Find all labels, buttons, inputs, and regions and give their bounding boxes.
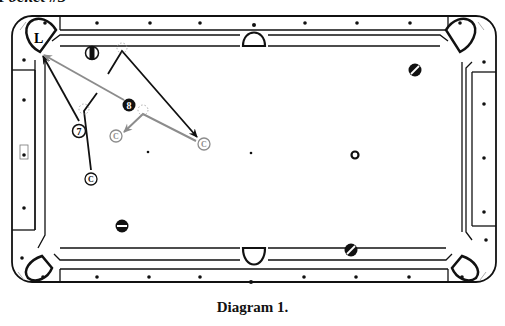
rail-lines xyxy=(12,16,496,282)
diamond xyxy=(95,21,99,25)
diamond xyxy=(41,275,45,279)
cue-1: C xyxy=(85,173,97,185)
pocket-bottom-side xyxy=(243,248,265,284)
diamond xyxy=(95,275,99,279)
shot-paths xyxy=(43,51,197,170)
diamond xyxy=(482,102,486,106)
svg-text:8: 8 xyxy=(127,100,132,111)
pocket-top-left: L xyxy=(20,19,56,52)
diamond xyxy=(302,275,306,279)
ball-small-center xyxy=(352,152,359,159)
ball-8: 8 xyxy=(123,99,136,112)
diamond xyxy=(407,275,411,279)
path-7-to-pocket xyxy=(43,56,79,121)
diamond xyxy=(458,21,462,25)
diamond xyxy=(303,21,307,25)
diamond xyxy=(354,275,358,279)
ball-striped-top xyxy=(86,47,99,60)
ball-striped-bottom-left xyxy=(116,220,129,233)
table-spots xyxy=(147,151,253,155)
diamond xyxy=(20,256,24,260)
pocket-bottom-right xyxy=(452,256,486,280)
diamond xyxy=(482,156,486,160)
svg-text:C: C xyxy=(201,140,207,149)
ball-7: 7 xyxy=(73,125,86,138)
diamond xyxy=(482,210,486,214)
diagram-caption: Diagram 1. xyxy=(0,299,505,316)
diamond xyxy=(147,275,151,279)
pocket-label: L xyxy=(34,31,43,46)
pool-table-diagram: L 78 CCC xyxy=(0,0,505,300)
diamond xyxy=(460,275,464,279)
diamond xyxy=(482,60,486,64)
diamond xyxy=(22,98,26,102)
diamond xyxy=(355,21,359,25)
svg-text:C: C xyxy=(113,132,119,141)
ball-striped-bottom-right xyxy=(345,244,358,257)
diamond xyxy=(198,21,202,25)
diamond xyxy=(22,206,26,210)
diamond xyxy=(484,238,488,242)
path-cue-bank xyxy=(108,51,197,137)
path-cue3-to-8 xyxy=(124,114,196,141)
diamond xyxy=(22,58,26,62)
table-spot xyxy=(250,152,253,155)
table-spot xyxy=(147,151,150,154)
cue-3: C xyxy=(198,138,210,150)
pocket-top-right xyxy=(446,19,484,52)
object-balls: 78 xyxy=(73,47,422,257)
svg-text:7: 7 xyxy=(77,126,82,137)
diamond xyxy=(408,21,412,25)
diamond xyxy=(43,21,47,25)
path-8-to-pocket xyxy=(44,55,124,100)
diamond xyxy=(198,275,202,279)
cue-2: C xyxy=(110,130,122,142)
table-outer-frame xyxy=(12,16,496,282)
pocket-bottom-left xyxy=(18,256,52,280)
diamond xyxy=(22,153,26,157)
cushions xyxy=(35,35,472,260)
diamond xyxy=(148,21,152,25)
svg-text:C: C xyxy=(88,175,94,184)
head-marker xyxy=(20,145,28,159)
pocket-top-side xyxy=(243,23,265,46)
ball-striped-right xyxy=(409,64,422,77)
